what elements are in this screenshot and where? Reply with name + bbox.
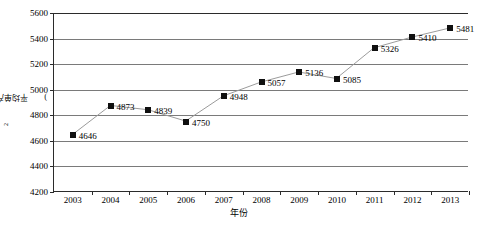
x-axis-tick xyxy=(280,191,281,195)
x-axis-tick-label: 2008 xyxy=(253,196,271,205)
x-axis-title: 年份 xyxy=(0,209,478,218)
data-point-marker[interactable] xyxy=(70,132,76,138)
x-axis-tick xyxy=(394,191,395,195)
x-axis-tick xyxy=(92,191,93,195)
x-axis-tick xyxy=(129,191,130,195)
x-axis-tick-label: 2012 xyxy=(403,196,421,205)
plot-area: 42004400460048005000520054005600 2003200… xyxy=(53,13,468,192)
x-axis-tick xyxy=(318,191,319,195)
y-axis-tick-label: 5600 xyxy=(30,9,48,18)
data-point-marker[interactable] xyxy=(296,69,302,75)
y-axis-tick-label: 5200 xyxy=(30,60,48,69)
data-point-marker[interactable] xyxy=(221,93,227,99)
y-axis-tick-label: 4400 xyxy=(30,162,48,171)
y-axis-tick-label: 4600 xyxy=(30,136,48,145)
data-point-marker[interactable] xyxy=(108,103,114,109)
data-point-label: 4839 xyxy=(154,107,172,116)
x-axis-tick-label: 2005 xyxy=(139,196,157,205)
chart-container: 平均单产/(kg/hm2) 42004400460048005000520054… xyxy=(0,0,478,243)
y-axis-title-superscript: 2 xyxy=(4,123,10,126)
x-axis-tick xyxy=(243,191,244,195)
x-axis-tick xyxy=(356,191,357,195)
y-axis-tick-label: 4200 xyxy=(30,188,48,197)
data-point-label: 5085 xyxy=(343,75,361,84)
data-point-label: 4948 xyxy=(230,93,248,102)
data-point-marker[interactable] xyxy=(145,107,151,113)
y-axis-title-suffix: ) xyxy=(0,94,47,102)
y-axis-tick-label: 5400 xyxy=(30,34,48,43)
x-axis-tick-label: 2009 xyxy=(290,196,308,205)
data-point-marker[interactable] xyxy=(334,76,340,82)
x-axis-tick xyxy=(469,191,470,195)
x-axis-tick-label: 2007 xyxy=(215,196,233,205)
x-axis-tick-label: 2006 xyxy=(177,196,195,205)
data-point-label: 5326 xyxy=(381,45,399,54)
x-axis-tick-label: 2013 xyxy=(441,196,459,205)
data-point-marker[interactable] xyxy=(183,119,189,125)
data-point-label: 5136 xyxy=(305,69,323,78)
data-point-marker[interactable] xyxy=(409,34,415,40)
data-point-label: 5481 xyxy=(456,25,474,34)
data-point-label: 4873 xyxy=(117,102,135,111)
data-point-label: 5410 xyxy=(418,34,436,43)
y-axis-tick-label: 4800 xyxy=(30,111,48,120)
x-axis-tick-label: 2011 xyxy=(366,196,384,205)
data-point-marker[interactable] xyxy=(259,79,265,85)
x-axis-tick xyxy=(205,191,206,195)
data-point-label: 4750 xyxy=(192,118,210,127)
x-axis-tick-label: 2004 xyxy=(102,196,120,205)
data-point-marker[interactable] xyxy=(372,45,378,51)
x-axis-tick-label: 2010 xyxy=(328,196,346,205)
y-axis-tick-label: 5000 xyxy=(30,85,48,94)
x-axis-tick-label: 2003 xyxy=(64,196,82,205)
x-axis-tick xyxy=(167,191,168,195)
y-axis-tick xyxy=(50,192,54,193)
data-point-marker[interactable] xyxy=(447,25,453,31)
x-axis-tick xyxy=(431,191,432,195)
data-point-label: 4646 xyxy=(79,131,97,140)
data-point-label: 5057 xyxy=(268,79,286,88)
y-axis-title: 平均单产/(kg/hm2) xyxy=(0,0,18,195)
